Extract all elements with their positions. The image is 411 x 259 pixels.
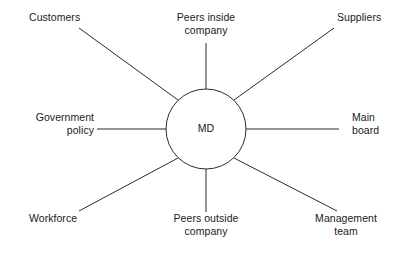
node-label-management-team: Management team [303, 212, 389, 237]
node-label-customers: Customers [29, 11, 80, 24]
node-label-government-policy: Government policy [10, 111, 94, 136]
spoke-line-workforce [79, 158, 178, 211]
node-label-workforce: Workforce [29, 212, 77, 225]
stakeholder-diagram: MD Customers Peers inside company Suppli… [0, 0, 411, 259]
node-label-peers-inside-company: Peers inside company [156, 11, 256, 36]
node-label-peers-outside-company: Peers outside company [156, 212, 256, 237]
spoke-line-suppliers [234, 28, 334, 100]
spoke-line-management-team [234, 158, 337, 211]
hub-label: MD [166, 122, 246, 135]
spoke-line-customers [79, 28, 178, 100]
node-label-main-board: Main board [352, 111, 379, 136]
node-label-suppliers: Suppliers [337, 11, 381, 24]
